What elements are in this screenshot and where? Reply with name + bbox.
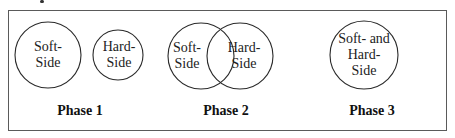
phase3-combined-label: Soft- and Hard- Side [338,31,390,79]
label-line: Hard- [103,39,136,55]
label-line: Soft- and [338,31,390,47]
phase1-caption: Phase 1 [57,103,103,119]
label-line: Side [34,55,62,71]
label-line: Soft- [173,40,201,56]
label-line: Side [173,56,201,72]
label-line: Side [103,55,136,71]
phase3-caption: Phase 3 [349,103,395,119]
label-line: Hard- [228,40,261,56]
label-line: Side [338,63,390,79]
phase1-hard-side-label: Hard- Side [103,39,136,71]
phase1-soft-side-label: Soft- Side [34,39,62,71]
phase2-caption: Phase 2 [203,103,249,119]
label-line: Soft- [34,39,62,55]
phase2-hard-side-label: Hard- Side [228,40,261,72]
label-line: Side [228,56,261,72]
phase2-soft-side-label: Soft- Side [173,40,201,72]
label-line: Hard- [338,47,390,63]
